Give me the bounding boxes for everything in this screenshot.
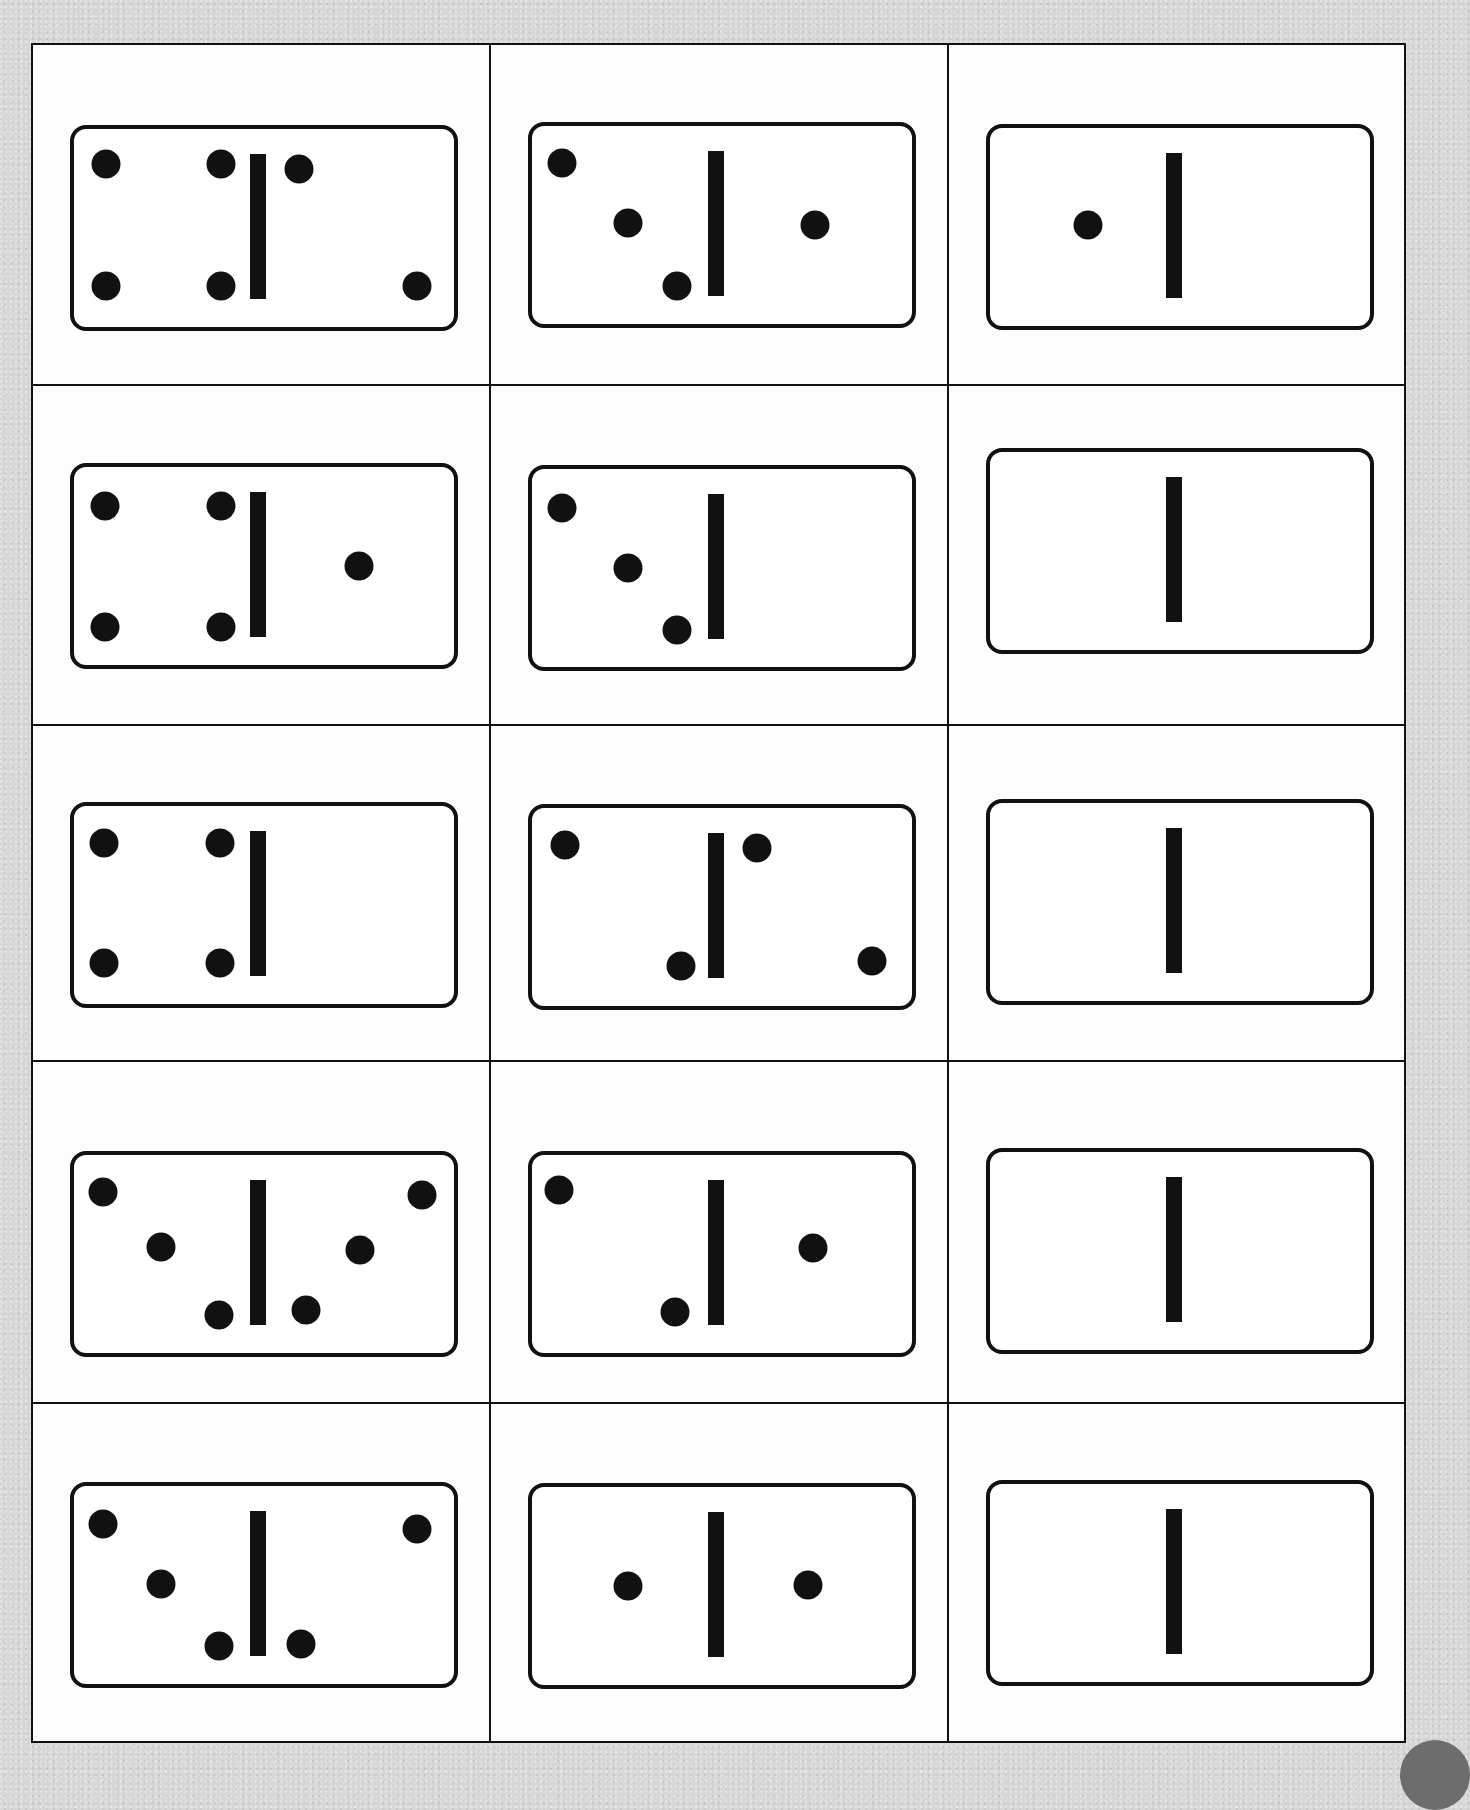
domino-1-1[interactable] [527, 1482, 917, 1690]
domino-divider-bar [708, 833, 724, 978]
pip-icon [91, 613, 120, 642]
domino-cell-r3-c1 [33, 726, 491, 1062]
domino-divider-bar [250, 831, 266, 976]
domino-cell-r2-c1 [33, 386, 491, 726]
domino-cell-r1-c3 [949, 45, 1404, 386]
pip-icon [292, 1296, 321, 1325]
domino-3-0[interactable] [527, 464, 917, 672]
domino-cell-r2-c2 [491, 386, 949, 726]
domino-0-0[interactable] [985, 798, 1375, 1006]
pip-icon [90, 949, 119, 978]
pip-icon [147, 1570, 176, 1599]
domino-cell-r4-c1 [33, 1062, 491, 1404]
pip-icon [90, 829, 119, 858]
domino-divider-bar [250, 492, 266, 637]
pip-icon [205, 1632, 234, 1661]
pip-icon [345, 552, 374, 581]
domino-divider-bar [708, 1512, 724, 1657]
pip-icon [548, 149, 577, 178]
pip-icon [1074, 211, 1103, 240]
domino-0-0[interactable] [985, 1479, 1375, 1687]
domino-cell-r5-c1 [33, 1404, 491, 1741]
domino-cell-r1-c2 [491, 45, 949, 386]
domino-2-1[interactable] [527, 1150, 917, 1358]
pip-icon [794, 1571, 823, 1600]
pip-icon [614, 554, 643, 583]
domino-0-0[interactable] [985, 1147, 1375, 1355]
pip-icon [403, 272, 432, 301]
pip-icon [346, 1236, 375, 1265]
domino-1-0[interactable] [985, 123, 1375, 331]
domino-divider-bar [708, 494, 724, 639]
pip-icon [548, 494, 577, 523]
pip-icon [667, 952, 696, 981]
pip-icon [147, 1233, 176, 1262]
pip-icon [551, 831, 580, 860]
pip-icon [207, 492, 236, 521]
pip-icon [205, 1301, 234, 1330]
domino-cell-r4-c2 [491, 1062, 949, 1404]
corner-shadow-blob [1400, 1740, 1470, 1810]
pip-icon [743, 834, 772, 863]
pip-icon [663, 272, 692, 301]
domino-grid [33, 45, 1404, 1741]
domino-4-1[interactable] [69, 462, 459, 670]
pip-icon [408, 1181, 437, 1210]
domino-cell-r5-c2 [491, 1404, 949, 1741]
pip-icon [663, 616, 692, 645]
domino-divider-bar [250, 154, 266, 299]
domino-divider-bar [250, 1180, 266, 1325]
pip-icon [614, 209, 643, 238]
pip-icon [403, 1515, 432, 1544]
domino-divider-bar [1166, 153, 1182, 298]
domino-divider-bar [1166, 477, 1182, 622]
pip-icon [545, 1176, 574, 1205]
domino-divider-bar [708, 151, 724, 296]
domino-cell-r3-c3 [949, 726, 1404, 1062]
pip-icon [858, 947, 887, 976]
domino-divider-bar [1166, 828, 1182, 973]
domino-cell-r4-c3 [949, 1062, 1404, 1404]
pip-icon [92, 150, 121, 179]
domino-cell-r3-c2 [491, 726, 949, 1062]
domino-cell-r2-c3 [949, 386, 1404, 726]
domino-3-1[interactable] [527, 121, 917, 329]
pip-icon [207, 150, 236, 179]
domino-divider-bar [250, 1511, 266, 1656]
pip-icon [614, 1572, 643, 1601]
pip-icon [92, 272, 121, 301]
domino-4-2[interactable] [69, 124, 459, 332]
pip-icon [91, 492, 120, 521]
pip-icon [287, 1630, 316, 1659]
domino-cell-r1-c1 [33, 45, 491, 386]
pip-icon [285, 155, 314, 184]
pip-icon [206, 829, 235, 858]
domino-divider-bar [708, 1180, 724, 1325]
domino-cell-r5-c3 [949, 1404, 1404, 1741]
domino-divider-bar [1166, 1509, 1182, 1654]
domino-3-3[interactable] [69, 1150, 459, 1358]
pip-icon [207, 272, 236, 301]
pip-icon [799, 1234, 828, 1263]
pip-icon [801, 211, 830, 240]
pip-icon [661, 1298, 690, 1327]
domino-4-0[interactable] [69, 801, 459, 1009]
pip-icon [89, 1178, 118, 1207]
pip-icon [89, 1510, 118, 1539]
domino-2-2[interactable] [527, 803, 917, 1011]
domino-0-0[interactable] [985, 447, 1375, 655]
domino-divider-bar [1166, 1177, 1182, 1322]
domino-card-sheet [31, 43, 1406, 1743]
pip-icon [207, 613, 236, 642]
domino-3-2[interactable] [69, 1481, 459, 1689]
pip-icon [206, 949, 235, 978]
